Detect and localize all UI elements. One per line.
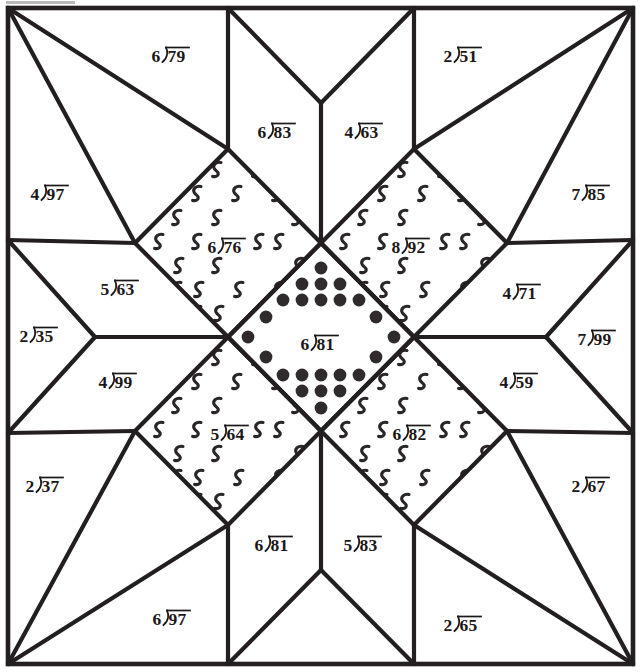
division-problem: 785 — [571, 184, 609, 204]
divisor: 6 — [257, 122, 266, 142]
print-dot — [388, 331, 401, 344]
print-dot — [370, 311, 383, 324]
print-dot — [296, 294, 309, 307]
print-dot — [277, 294, 290, 307]
dividend: 83 — [273, 122, 291, 142]
divisor: 5 — [100, 279, 109, 299]
dividend: 85 — [587, 184, 605, 204]
dividend: 82 — [408, 424, 426, 444]
division-problem: 463 — [344, 122, 382, 142]
print-dot — [260, 351, 273, 364]
divisor: 6 — [392, 424, 401, 444]
print-dot — [315, 402, 328, 415]
division-problem: 471 — [502, 283, 540, 303]
dividend: 81 — [270, 535, 288, 555]
division-problem: 459 — [499, 372, 537, 392]
division-problem: 676 — [207, 237, 245, 257]
divisor: 2 — [571, 476, 580, 496]
divisor: 8 — [391, 237, 400, 257]
divisor: 2 — [25, 476, 34, 496]
print-dot — [334, 385, 347, 398]
print-dot — [277, 369, 290, 382]
dividend: 65 — [459, 615, 477, 635]
dividend: 97 — [46, 184, 64, 204]
division-problem: 681 — [300, 334, 338, 354]
divisor: 6 — [152, 609, 161, 629]
print-dot — [334, 278, 347, 291]
print-dot — [334, 294, 347, 307]
print-dot — [260, 311, 273, 324]
division-problem: 683 — [257, 122, 295, 142]
dividend: 37 — [41, 476, 59, 496]
print-dot — [315, 385, 328, 398]
print-dot — [296, 385, 309, 398]
dividend: 76 — [223, 237, 241, 257]
division-problem: 267 — [571, 476, 609, 496]
print-dot — [315, 278, 328, 291]
divisor: 6 — [254, 535, 263, 555]
division-problem: 697 — [152, 609, 190, 629]
division-problem: 682 — [392, 424, 430, 444]
dividend: 79 — [167, 46, 185, 66]
dividend: 63 — [116, 279, 134, 299]
divisor: 4 — [502, 283, 511, 303]
dividend: 92 — [407, 237, 425, 257]
print-dot — [315, 369, 328, 382]
division-problem: 235 — [19, 326, 57, 346]
print-dot — [370, 351, 383, 364]
dividend: 97 — [168, 609, 186, 629]
divisor: 4 — [30, 184, 39, 204]
division-problem: 499 — [98, 372, 136, 392]
quilt-worksheet: 6796834632514977856768925634712356817994… — [0, 0, 642, 672]
division-problem: 237 — [25, 476, 63, 496]
dividend: 63 — [360, 122, 378, 142]
dividend: 35 — [35, 326, 53, 346]
print-dot — [296, 369, 309, 382]
division-problem: 564 — [210, 424, 248, 444]
division-problem: 497 — [30, 184, 68, 204]
divisor: 7 — [577, 329, 586, 349]
divisor: 2 — [443, 615, 452, 635]
print-dot — [353, 369, 366, 382]
divisor: 7 — [571, 184, 580, 204]
dividend: 81 — [316, 334, 334, 354]
print-dot — [315, 294, 328, 307]
divisor: 5 — [210, 424, 219, 444]
dividend: 59 — [515, 372, 533, 392]
division-problem: 563 — [100, 279, 138, 299]
dividend: 71 — [518, 283, 536, 303]
print-dot — [296, 278, 309, 291]
dividend: 83 — [359, 535, 377, 555]
divisor: 6 — [151, 46, 160, 66]
scan-artifact-line — [6, 1, 75, 4]
divisor: 4 — [499, 372, 508, 392]
division-problem: 681 — [254, 535, 292, 555]
print-dot — [334, 369, 347, 382]
divisor: 5 — [343, 535, 352, 555]
dividend: 67 — [587, 476, 605, 496]
divisor: 6 — [300, 334, 309, 354]
dividend: 51 — [459, 46, 477, 66]
division-problem: 892 — [391, 237, 429, 257]
division-problem: 799 — [577, 329, 615, 349]
dividend: 64 — [226, 424, 244, 444]
print-dot — [353, 294, 366, 307]
divisor: 2 — [19, 326, 28, 346]
divisor: 2 — [443, 46, 452, 66]
division-problem: 251 — [443, 46, 481, 66]
division-problem: 679 — [151, 46, 189, 66]
print-dot — [242, 331, 255, 344]
print-dot — [315, 262, 328, 275]
divisor: 6 — [207, 237, 216, 257]
division-problem: 265 — [443, 615, 481, 635]
dividend: 99 — [114, 372, 132, 392]
dividend: 99 — [593, 329, 611, 349]
division-problem: 583 — [343, 535, 381, 555]
divisor: 4 — [98, 372, 107, 392]
divisor: 4 — [344, 122, 353, 142]
quilt-block-diagram: 6796834632514977856768925634712356817994… — [0, 0, 642, 672]
